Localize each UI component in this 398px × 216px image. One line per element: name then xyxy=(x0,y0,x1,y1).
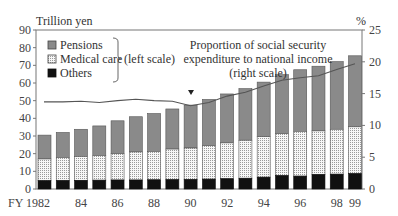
bar-segment-medical-care xyxy=(111,154,124,180)
bar-segment-others xyxy=(93,180,106,189)
bar-segment-medical-care xyxy=(148,152,161,180)
bar-group-1998 xyxy=(330,62,343,189)
bar-segment-others xyxy=(56,181,69,189)
bar-group-1995 xyxy=(275,75,288,189)
bar-segment-medical-care xyxy=(239,140,252,178)
left-tick-label: 30 xyxy=(19,129,31,143)
bar-segment-medical-care xyxy=(275,134,288,176)
annotation-line-3: (right scale) xyxy=(229,66,287,80)
bar-segment-medical-care xyxy=(294,131,307,176)
bar-group-1994 xyxy=(257,82,270,189)
right-tick-label: 5 xyxy=(369,150,375,164)
bar-segment-medical-care xyxy=(349,127,362,174)
bar-segment-others xyxy=(239,178,252,189)
bar-group-1986 xyxy=(111,121,124,189)
legend-swatch-others xyxy=(48,69,56,77)
legend-label-pensions: Pensions xyxy=(60,38,103,52)
bar-segment-pensions xyxy=(56,132,69,157)
bar-segment-others xyxy=(129,180,142,189)
left-axis: 0102030405060708090 xyxy=(19,23,36,196)
right-tick-label: 10 xyxy=(369,118,381,132)
bar-segment-medical-care xyxy=(184,148,197,179)
bar-segment-pensions xyxy=(93,126,106,156)
bar-segment-medical-care xyxy=(330,129,343,174)
bar-segment-pensions xyxy=(330,62,343,130)
bar-group-1985 xyxy=(93,126,106,189)
left-axis-title: Trillion yen xyxy=(36,14,93,28)
right-axis: 0510152025 xyxy=(362,23,381,196)
right-tick-label: 0 xyxy=(369,182,375,196)
x-tick-label: FY 1982 xyxy=(8,196,50,210)
left-tick-label: 10 xyxy=(19,164,31,178)
legend-swatch-medical xyxy=(48,55,56,63)
bar-segment-pensions xyxy=(38,135,51,159)
bar-segment-medical-care xyxy=(312,131,325,175)
bar-segment-others xyxy=(221,179,234,189)
bar-group-1989 xyxy=(166,109,179,189)
x-tick-label: 88 xyxy=(148,196,160,210)
x-tick-label: 92 xyxy=(221,196,233,210)
bar-segment-others xyxy=(202,179,215,189)
left-tick-label: 80 xyxy=(19,41,31,55)
bar-segment-others xyxy=(330,174,343,189)
bar-group-1982 xyxy=(38,135,51,189)
bar-segment-others xyxy=(111,180,124,189)
bar-segment-others xyxy=(166,180,179,189)
bar-segment-medical-care xyxy=(202,146,215,179)
bar-group-1999 xyxy=(349,56,362,189)
bar-segment-pensions xyxy=(239,89,252,141)
left-tick-label: 70 xyxy=(19,58,31,72)
bar-segment-others xyxy=(294,176,307,189)
bar-segment-others xyxy=(148,180,161,189)
right-tick-label: 20 xyxy=(369,55,381,69)
bar-segment-others xyxy=(349,174,362,189)
right-tick-label: 25 xyxy=(369,23,381,37)
x-tick-label: 94 xyxy=(258,196,270,210)
bar-segment-pensions xyxy=(294,70,307,132)
legend-scale-note: (left scale) xyxy=(124,52,175,66)
bar-segment-pensions xyxy=(275,75,288,134)
bar-group-1992 xyxy=(221,94,234,189)
bar-segment-pensions xyxy=(257,82,270,137)
bar-segment-medical-care xyxy=(166,149,179,180)
x-tick-label: 86 xyxy=(112,196,124,210)
bar-group-1991 xyxy=(202,99,215,189)
bar-group-1983 xyxy=(56,132,69,189)
bar-group-1988 xyxy=(148,114,161,189)
bar-segment-others xyxy=(275,176,288,189)
bar-segment-others xyxy=(38,181,51,189)
legend-swatch-pensions xyxy=(48,41,56,49)
bar-segment-pensions xyxy=(111,121,124,154)
annotation-line-1: Proportion of social security xyxy=(190,38,326,52)
x-tick-label: 99 xyxy=(349,196,361,210)
x-tick-label: 90 xyxy=(185,196,197,210)
bar-group-1984 xyxy=(75,129,88,189)
right-tick-label: 15 xyxy=(369,87,381,101)
left-tick-label: 20 xyxy=(19,147,31,161)
right-axis-title: % xyxy=(356,14,366,28)
left-tick-label: 50 xyxy=(19,94,31,108)
bar-segment-medical-care xyxy=(129,152,142,180)
bar-segment-pensions xyxy=(166,109,179,149)
bar-segment-medical-care xyxy=(221,143,234,179)
bar-segment-pensions xyxy=(349,56,362,127)
bar-segment-pensions xyxy=(129,117,142,152)
bar-segment-pensions xyxy=(75,129,88,156)
annotation-line-2: expenditure to national income xyxy=(184,52,333,66)
legend-label-others: Others xyxy=(60,66,92,80)
bar-group-1997 xyxy=(312,66,325,189)
left-tick-label: 40 xyxy=(19,111,31,125)
bar-segment-medical-care xyxy=(56,158,69,181)
chart: Trillion yen % 0102030405060708090 05101… xyxy=(0,0,398,216)
bar-segment-medical-care xyxy=(75,156,88,180)
bar-segment-pensions xyxy=(202,99,215,145)
bar-group-1990 xyxy=(184,105,197,189)
legend: Pensions Medical care Others (left scale… xyxy=(48,38,175,82)
bar-group-1996 xyxy=(294,70,307,189)
bar-segment-medical-care xyxy=(93,156,106,181)
bar-segment-others xyxy=(312,175,325,189)
x-tick-label: 84 xyxy=(75,196,87,210)
bar-segment-pensions xyxy=(221,94,234,143)
left-tick-label: 60 xyxy=(19,76,31,90)
x-axis: FY 1982848688909294969899 xyxy=(8,196,361,210)
